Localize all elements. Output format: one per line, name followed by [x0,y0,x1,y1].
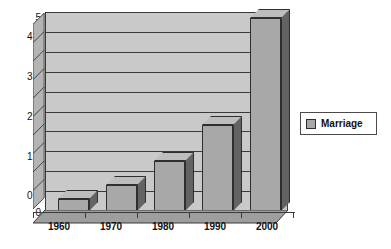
marriage-series-swatch [306,119,316,129]
bar-front-face [154,161,185,211]
bar-front-face [106,185,137,211]
x-axis-tick-label: 1980 [143,222,183,232]
bar-side-face [185,152,194,211]
bar-1970 [106,176,137,211]
bar-side-face [281,9,290,211]
x-axis-tick-label: 1960 [39,222,79,232]
chart-screenshot: 5 4.5 4 3.5 3 2.5 2 1.5 1 0.5 0 [0,0,391,249]
chart-legend: Marriage [300,112,377,135]
bar-1990 [202,116,233,211]
x-axis-tick [33,213,34,218]
x-axis-line [33,212,295,213]
legend-entry-label: Marriage [321,118,363,129]
bar-1960 [58,190,89,211]
x-axis-tick-label: 1990 [195,222,235,232]
x-axis: 1960 1970 1980 1990 2000 [0,222,391,238]
x-axis-tick [241,213,242,218]
bar-front-face [250,18,281,211]
x-axis-tick [189,213,190,218]
plot-side-wall [33,12,46,212]
x-axis-tick [85,213,86,218]
plot-area [45,12,288,211]
x-axis-tick [137,213,138,218]
bar-side-face [233,116,242,211]
x-axis-tick [293,213,294,218]
bar-2000 [250,9,281,211]
bar-front-face [202,125,233,211]
x-axis-tick-label: 2000 [247,222,287,232]
x-axis-tick-label: 1970 [91,222,131,232]
bar-1980 [154,152,185,211]
